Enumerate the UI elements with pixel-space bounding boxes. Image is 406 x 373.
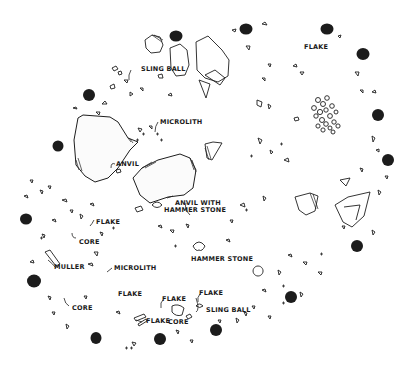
label-flake-left: FLAKE bbox=[96, 218, 120, 226]
anvil-stone-center bbox=[133, 154, 196, 203]
label-sling-ball-bottom: SLING BALL bbox=[206, 306, 251, 314]
label-core-bottom: CORE bbox=[168, 318, 189, 326]
label-core-left: CORE bbox=[79, 238, 100, 246]
anvil-stone-left bbox=[74, 115, 138, 182]
label-hammer-stone-anvil: HAMMER STONE bbox=[164, 206, 226, 214]
label-anvil: ANVIL bbox=[116, 160, 139, 168]
label-flake-bottom-right: FLAKE bbox=[199, 289, 223, 297]
scattered-debris bbox=[24, 22, 388, 346]
label-sling-ball-top: SLING BALL bbox=[141, 65, 186, 73]
label-flake-top: FLAKE bbox=[304, 43, 328, 51]
label-microlith-top: MICROLITH bbox=[160, 118, 202, 126]
pebble-cluster bbox=[312, 96, 341, 134]
label-microlith-bottom: MICROLITH bbox=[114, 264, 156, 272]
label-flake-bottom: FLAKE bbox=[146, 317, 170, 325]
stone-cluster-top bbox=[145, 35, 229, 160]
stone-cluster-right bbox=[295, 178, 370, 227]
label-hammer-stone: HAMMER STONE bbox=[191, 255, 253, 263]
label-flake-bottom-mid: FLAKE bbox=[162, 295, 186, 303]
label-flake-mid: FLAKE bbox=[118, 290, 142, 298]
hut-floor-plan: SLING BALL FLAKE MICROLITH ANVIL ANVIL W… bbox=[0, 0, 406, 373]
label-core-bottom-left: CORE bbox=[72, 304, 93, 312]
